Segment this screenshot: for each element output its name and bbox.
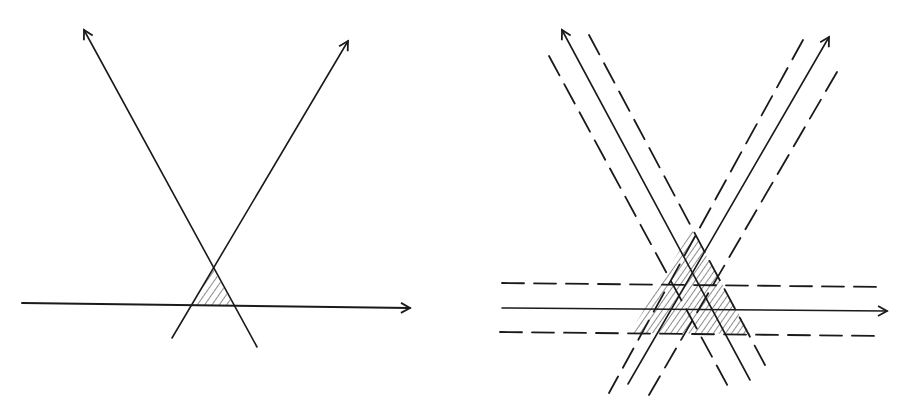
dashed-line [649,72,837,395]
line-right-leaning [172,41,348,338]
hatched-triangle [193,268,233,306]
right-panel [500,30,887,395]
line-left-leaning [84,30,257,347]
diagram-canvas [0,0,906,409]
left-panel [22,30,410,347]
dashed-line [609,40,803,393]
